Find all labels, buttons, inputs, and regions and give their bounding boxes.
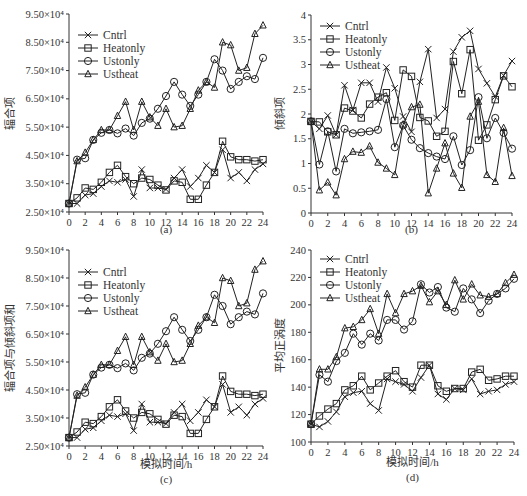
legend-item-ustonly: Ustonly <box>78 55 140 68</box>
x-tick-label: 0 <box>66 217 71 228</box>
series-ustonly <box>65 290 266 441</box>
y-tick-label: 6.50×10⁴ <box>26 329 65 340</box>
x-tick-label: 18 <box>209 217 220 228</box>
chart-panel-c: 2.50×10⁴3.50×10⁴4.50×10⁴5.50×10⁴6.50×10⁴… <box>3 245 269 487</box>
y-axis-label: 辐合项与倾斜项和 <box>3 304 16 392</box>
panel-caption: (b) <box>405 223 418 236</box>
y-tick-label: 2 <box>301 109 306 120</box>
x-marker-icon <box>179 166 185 172</box>
legend-label: Cntrl <box>103 266 127 278</box>
x-tick-label: 16 <box>193 451 204 462</box>
legend-item-ustonly: Ustonly <box>320 46 382 59</box>
x-marker-icon <box>325 418 331 424</box>
x-marker-icon <box>383 64 389 70</box>
x-marker-icon <box>435 391 441 397</box>
legend-item-ustheat: Ustheat <box>78 305 139 317</box>
x-tick-label: 6 <box>115 217 120 228</box>
x-tick-label: 2 <box>83 451 88 462</box>
x-marker-icon <box>195 175 201 181</box>
x-marker-icon <box>443 396 449 402</box>
x-marker-icon <box>187 418 193 424</box>
x-tick-label: 20 <box>475 447 486 458</box>
y-tick-label: 5.50×10⁴ <box>26 122 65 133</box>
y-tick-label: 8.50×10⁴ <box>26 37 65 48</box>
series-cntrl <box>66 147 266 207</box>
panel-caption: (a) <box>160 223 173 236</box>
x-tick-label: 22 <box>242 217 253 228</box>
x-tick-label: 6 <box>359 447 364 458</box>
x-tick-label: 6 <box>359 218 364 229</box>
y-tick-label: 8.50×10⁴ <box>26 273 65 284</box>
y-tick-label: 4.50×10⁴ <box>26 385 65 396</box>
legend-item-ustheat: Ustheat <box>320 59 381 71</box>
x-axis-label: 模拟时间/h <box>386 455 439 468</box>
x-tick-label: 18 <box>458 447 469 458</box>
y-tick-label: 100 <box>290 437 306 448</box>
legend-item-ustheat: Ustheat <box>78 68 139 80</box>
triangle-marker-icon <box>260 258 266 264</box>
y-tick-label: 7.50×10⁴ <box>26 301 65 312</box>
x-marker-icon <box>236 404 242 410</box>
x-axis-label: 模拟时间/h <box>140 457 193 470</box>
x-marker-icon <box>227 175 233 181</box>
x-marker-icon <box>244 178 250 184</box>
y-tick-label: 9.50×10⁴ <box>26 9 65 20</box>
x-marker-icon <box>260 161 266 167</box>
x-tick-label: 14 <box>177 217 188 228</box>
circle-marker-icon <box>508 145 515 152</box>
x-tick-label: 18 <box>457 218 468 229</box>
legend-item-cntrl: Cntrl <box>78 266 127 278</box>
legend: CntrlHeatonlyUstonlyUstheat <box>78 266 145 317</box>
chart-panel-a: 2.50×10⁴3.50×10⁴4.50×10⁴5.50×10⁴6.50×10⁴… <box>3 9 269 237</box>
x-marker-icon <box>203 162 209 168</box>
x-tick-label: 0 <box>308 218 313 229</box>
series-cntrl <box>66 381 266 441</box>
legend-label: Ustheat <box>103 68 139 80</box>
series-line <box>69 376 263 438</box>
y-tick-label: 9.50×10⁴ <box>26 245 65 256</box>
y-tick-label: 140 <box>290 382 306 393</box>
y-tick-label: 200 <box>290 299 306 310</box>
legend-label: Ustonly <box>345 279 382 292</box>
x-tick-label: 4 <box>342 218 348 229</box>
x-tick-label: 22 <box>490 218 501 229</box>
y-tick-label: 6.50×10⁴ <box>26 93 65 104</box>
legend-label: Ustheat <box>345 59 381 71</box>
x-tick-label: 4 <box>99 451 105 462</box>
x-marker-icon <box>227 409 233 415</box>
legend: CntrlHeatonlyUstonlyUstheat <box>78 29 145 80</box>
legend-item-ustheat: Ustheat <box>320 292 381 304</box>
x-tick-label: 4 <box>342 447 348 458</box>
x-marker-icon <box>244 412 250 418</box>
x-marker-icon <box>316 126 322 132</box>
triangle-marker-icon <box>260 22 266 28</box>
series-cntrl <box>308 362 517 430</box>
series-ustonly <box>65 54 266 207</box>
y-axis-label: 辐合项 <box>3 97 16 130</box>
y-tick-label: 3.50×10⁴ <box>26 413 65 424</box>
chart-panel-b: 00.511.522.533.54024681012141618202224倾斜… <box>274 10 518 237</box>
legend-item-cntrl: Cntrl <box>320 20 369 32</box>
series-line <box>311 365 514 424</box>
x-tick-label: 8 <box>375 218 380 229</box>
legend-item-heatonly: Heatonly <box>320 33 387 46</box>
x-marker-icon <box>187 183 193 189</box>
y-tick-label: 3.5 <box>293 34 306 45</box>
x-marker-icon <box>484 80 490 86</box>
x-marker-icon <box>179 401 185 407</box>
x-marker-icon <box>236 169 242 175</box>
y-tick-label: 1.5 <box>293 133 306 144</box>
chart-panel-d: 1001201401601802002202400246810121416182… <box>273 245 520 485</box>
x-marker-icon <box>459 34 465 40</box>
x-marker-icon <box>392 378 398 384</box>
panel-caption: (c) <box>160 473 173 486</box>
x-marker-icon <box>130 193 136 199</box>
y-tick-label: 120 <box>290 409 306 420</box>
x-marker-icon <box>325 112 331 118</box>
series-ustheat <box>66 22 266 207</box>
x-marker-icon <box>260 395 266 401</box>
y-tick-label: 7.50×10⁴ <box>26 65 65 76</box>
x-marker-icon <box>139 166 145 172</box>
legend-label: Ustonly <box>103 292 140 305</box>
x-tick-label: 8 <box>376 447 381 458</box>
